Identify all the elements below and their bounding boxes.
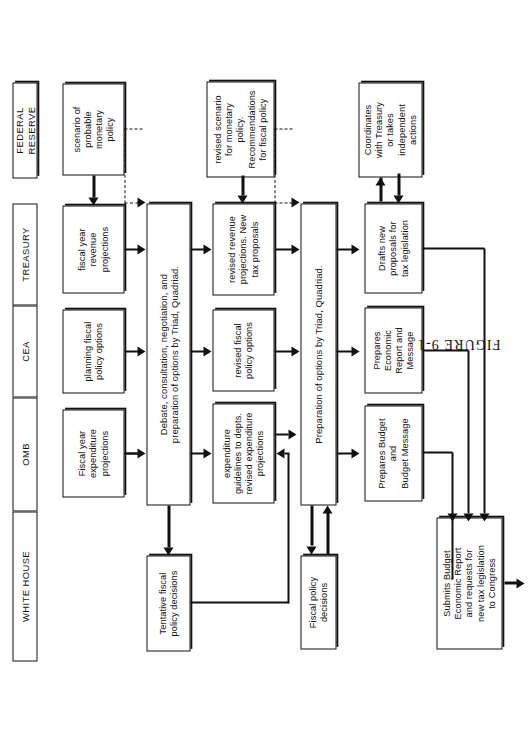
arrowhead-expenditure-to-preparation — [288, 429, 296, 439]
node-label: planning fiscal policy options — [82, 321, 104, 381]
edge-fed2-dashed-drop — [274, 202, 292, 203]
lane-label: OMB — [19, 443, 30, 466]
node-label: revised revenue projections. New tax pro… — [226, 214, 260, 284]
lane-header-cea: CEA — [12, 305, 37, 397]
arrowhead-coordinates-to-drafts — [393, 195, 403, 203]
arrowhead-preparation-to-economic-report — [351, 346, 359, 356]
node-submits-budget-economic-report: Submits Budget Economic Report and reque… — [436, 517, 502, 649]
edge-tentative-up-to-expenditure — [284, 452, 289, 454]
flowchart-canvas: WHITE HOUSE OMB CEA TREASURY FEDERAL RES… — [0, 0, 528, 745]
edge-fiscal-decisions-back-to-preparation — [326, 512, 329, 554]
arrowhead-debate-to-expenditure — [203, 448, 211, 458]
arrowhead-preparation-to-fiscal-decisions — [306, 546, 316, 554]
node-label: Coordinates with Treasury or takes indep… — [362, 102, 418, 158]
arrowhead-fed-dashed-to-debate — [137, 197, 145, 207]
edge-drafts-to-submits-left — [483, 248, 485, 513]
node-revised-fiscal-policy-options: revised fiscal policy options — [212, 309, 274, 391]
figure-page: WHITE HOUSE OMB CEA TREASURY FEDERAL RES… — [0, 0, 528, 745]
edge-cea-to-debate-stem — [124, 350, 138, 352]
edge-budget-to-submits-stem — [451, 577, 452, 579]
figure-caption: FIGURE 9-1 — [416, 335, 500, 351]
edge-preparation-to-budget-stem — [336, 452, 352, 454]
node-label: Debate, consultation, negotiation, and p… — [157, 265, 180, 442]
edge-budget-to-submits-down — [422, 451, 452, 453]
node-tentative-fiscal-policy-decisions: Tentative fiscal policy decisions — [146, 555, 190, 651]
node-label: Preparation of options by Triad, Quadria… — [312, 265, 323, 443]
edge-drafts-to-submits-down — [422, 247, 484, 249]
arrowhead-economic-report-to-submits — [463, 513, 473, 521]
lane-label: TREASURY — [19, 227, 30, 281]
edge-fed-dashed-drop — [124, 202, 138, 203]
edge-economic-report-to-submits-left — [467, 350, 469, 513]
arrowhead-debate-to-revised-revenue — [203, 244, 211, 254]
edge-preparation-to-economic-report-stem — [336, 350, 352, 352]
edge-revised-scenario-to-revenue — [241, 175, 244, 195]
arrowhead-debate-to-revised-fiscal — [203, 346, 211, 356]
edge-fed-dashed-horizontal — [124, 128, 125, 203]
node-fiscal-year-expenditure-projections: Fiscal year expenditure projections — [62, 409, 124, 497]
arrowhead-preparation-to-budget — [351, 448, 359, 458]
edge-treasury-to-debate-stem — [124, 248, 138, 250]
arrowhead-revised-fiscal-to-preparation — [291, 346, 299, 356]
edge-fed-dashed-vertical — [124, 128, 142, 129]
arrowhead-fiscal-decisions-back — [322, 505, 332, 513]
node-revised-scenario-for-monetary-policy: revised scenario for monetary policy. Re… — [206, 81, 274, 177]
node-revised-revenue-projections-new-tax-proposals: revised revenue projections. New tax pro… — [212, 203, 274, 295]
edge-tentative-right — [287, 453, 289, 603]
edge-tentative-down — [190, 601, 288, 603]
arrowhead-cea-to-debate — [137, 346, 145, 356]
arrowhead-omb-to-debate — [137, 448, 145, 458]
arrowhead-drafts-to-coordinates — [375, 177, 385, 185]
arrowhead-revised-scenario-to-revenue — [237, 195, 247, 203]
lane-header-federal-reserve: FEDERAL RESERVE — [12, 82, 37, 178]
lane-header-white-house: WHITE HOUSE — [12, 511, 37, 661]
edge-preparation-to-fiscal-decisions — [310, 505, 313, 545]
node-prepares-economic-report-and-message: Prepares Economic Report and Message — [364, 307, 422, 393]
edge-revised-fiscal-to-preparation-stem — [274, 350, 292, 352]
edge-expenditure-to-preparation-stem — [274, 433, 288, 435]
lane-header-treasury: TREASURY — [12, 203, 37, 305]
node-label: Drafts new proposals for tax legislation — [376, 219, 410, 276]
node-fiscal-year-revenue-projections: fiscal year revenue projections — [62, 205, 124, 293]
arrowhead-submits-to-congress — [516, 578, 524, 588]
node-label: Fiscal year expenditure projections — [76, 428, 110, 477]
node-expenditure-guidelines-revised-projections: expenditure guidelines to depts. revised… — [212, 403, 274, 503]
lane-label: CEA — [19, 341, 30, 362]
node-label: fiscal year revenue projections — [76, 226, 110, 272]
arrowhead-fed2-dashed-to-preparation — [291, 197, 299, 207]
edge-debate-to-revised-fiscal-stem — [190, 350, 204, 352]
arrowhead-debate-to-tentative — [163, 547, 173, 555]
node-label: Fiscal policy decisions — [307, 576, 329, 627]
arrowhead-revised-revenue-to-preparation — [291, 244, 299, 254]
edge-fed2-dashed-horizontal — [274, 128, 275, 203]
edge-debate-to-expenditure-stem — [190, 452, 204, 454]
node-label: Submits Budget Economic Report and reque… — [441, 545, 497, 622]
node-label: Prepares Economic Report and Message — [371, 327, 416, 373]
arrowhead-fed-to-treasury — [88, 197, 98, 205]
arrowhead-budget-to-submits — [447, 513, 457, 521]
lane-label: FEDERAL RESERVE — [13, 106, 35, 154]
edge-revised-revenue-to-preparation-stem — [274, 248, 292, 250]
node-debate-consultation-negotiation: Debate, consultation, negotiation, and p… — [146, 203, 190, 505]
node-label: scenario of probable monetary policy — [71, 106, 116, 152]
edge-debate-to-tentative — [167, 505, 170, 547]
node-coordinates-with-treasury: Coordinates with Treasury or takes indep… — [358, 82, 422, 177]
edge-fed2-dashed-vertical — [274, 128, 292, 129]
node-scenario-of-probable-monetary-policy: scenario of probable monetary policy — [62, 83, 124, 175]
node-label: revised fiscal policy options — [232, 321, 254, 378]
arrowhead-treasury-to-debate — [137, 244, 145, 254]
edge-fed-to-treasury-stage1 — [92, 175, 95, 197]
node-drafts-new-proposals-for-tax-legislation: Drafts new proposals for tax legislation — [364, 203, 422, 293]
node-label: Prepares Budget and Budget Message — [376, 418, 410, 488]
lane-header-omb: OMB — [12, 397, 37, 511]
lane-label: WHITE HOUSE — [19, 550, 30, 621]
node-label: expenditure guidelines to depts. revised… — [221, 412, 266, 494]
node-label: Tentative fiscal policy decisions — [157, 570, 179, 636]
edge-coordinates-to-drafts — [397, 173, 400, 195]
arrowhead-tentative-to-expenditure — [276, 448, 284, 458]
edge-omb-to-debate-stem — [124, 452, 138, 454]
edge-preparation-to-drafts-stem — [336, 248, 352, 250]
arrowhead-drafts-to-submits — [479, 513, 489, 521]
arrowhead-preparation-to-drafts — [351, 244, 359, 254]
node-fiscal-policy-decisions: Fiscal policy decisions — [300, 555, 336, 649]
